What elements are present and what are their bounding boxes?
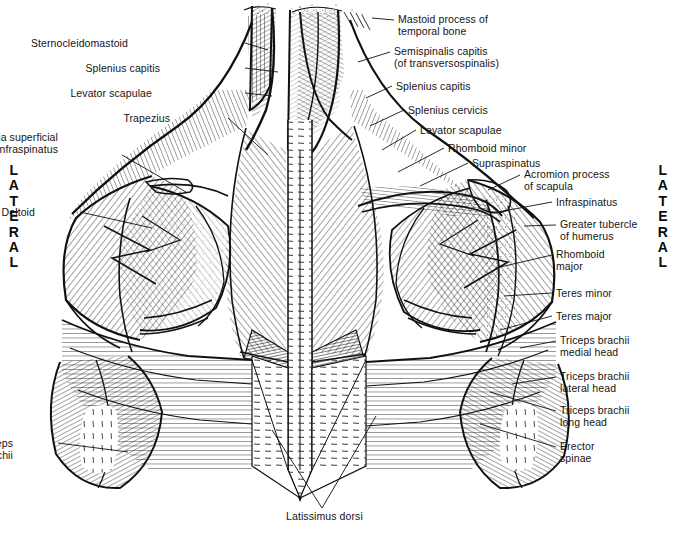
- label-splenius-cervicis: Splenius cervicis: [408, 104, 488, 116]
- label-greater-tubercle: Greater tubercle of humerus: [560, 218, 637, 242]
- orientation-label-right: L A T E R A L: [653, 163, 673, 271]
- label-triceps-lateral-head: Triceps brachii lateral head: [560, 370, 629, 394]
- label-sternocleidomastoid: Sternocleidomastoid: [31, 37, 128, 49]
- label-trapezius: Trapezius: [123, 112, 170, 124]
- label-deltoid: Deltoid: [2, 206, 35, 218]
- label-triceps-brachii-left: Triceps brachii: [0, 437, 13, 461]
- anatomy-figure: L A T E R A L L A T E R A L Sternocleido…: [0, 0, 677, 534]
- label-teres-major: Teres major: [556, 310, 612, 322]
- label-teres-minor: Teres minor: [556, 287, 612, 299]
- label-acromion-process: Acromion process of scapula: [524, 168, 610, 192]
- label-levator-scapulae-right: Levator scapulae: [420, 124, 502, 136]
- label-erector-spinae: Erector spinae: [560, 440, 595, 464]
- label-rhomboid-minor: Rhomboid minor: [448, 142, 526, 154]
- label-mastoid-process: Mastoid process of temporal bone: [398, 13, 488, 37]
- label-triceps-long-head: Triceps brachii long head: [560, 404, 629, 428]
- label-fascia-infraspinatus: Fascia superficial to the infraspinatus: [0, 131, 58, 155]
- label-triceps-medial-head: Triceps brachii medial head: [560, 334, 629, 358]
- label-splenius-capitis-right: Splenius capitis: [396, 80, 471, 92]
- label-rhomboid-major: Rhomboid major: [556, 248, 605, 272]
- label-semispinalis-capitis: Semispinalis capitis (of transversospina…: [394, 45, 499, 69]
- label-infraspinatus: Infraspinatus: [556, 196, 617, 208]
- label-latissimus-dorsi: Latissimus dorsi: [286, 510, 363, 522]
- label-levator-scapulae-left: Levator scapulae: [70, 87, 152, 99]
- label-splenius-capitis-left: Splenius capitis: [85, 62, 160, 74]
